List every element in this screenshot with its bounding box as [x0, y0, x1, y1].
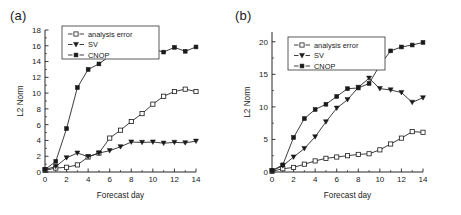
marker-filled-square	[410, 43, 414, 47]
marker-filled-square	[302, 117, 306, 121]
y-tick-label: 4	[37, 136, 42, 145]
marker-open-square	[194, 89, 198, 93]
legend: analysis errorSVCNOP	[62, 26, 159, 60]
panel-b: (b) 0510152002468101214Forecast dayL2 No…	[230, 0, 460, 215]
y-axis-title: L2 Norm	[16, 85, 25, 117]
legend-label-cnop: CNOP	[88, 51, 109, 60]
x-tick-label: 4	[313, 175, 318, 184]
y-tick-label: 16	[32, 42, 41, 51]
marker-open-square	[75, 163, 79, 167]
marker-open-square	[140, 112, 144, 116]
x-tick-label: 10	[375, 175, 384, 184]
x-tick-label: 2	[291, 175, 296, 184]
marker-filled-square	[194, 45, 198, 49]
x-tick-label: 12	[170, 175, 179, 184]
y-axis-title: L2 Norm	[243, 86, 252, 118]
figure-two-panel-line-charts: (a) 02468101214161802468101214Forecast d…	[0, 0, 461, 215]
marker-open-square	[313, 159, 317, 163]
marker-open-square	[367, 152, 371, 156]
marker-filled-square	[356, 86, 360, 90]
marker-open-square	[162, 94, 166, 98]
x-tick-label: 6	[107, 175, 112, 184]
marker-filled-square	[292, 136, 296, 140]
y-tick-label: 12	[32, 73, 41, 82]
marker-filled-square	[389, 49, 393, 53]
marker-filled-square	[75, 86, 79, 90]
y-tick-label: 10	[32, 89, 41, 98]
legend-label-analysis-error: analysis error	[314, 41, 359, 50]
marker-open-square	[151, 102, 155, 106]
marker-filled-triangle-down	[421, 96, 426, 101]
marker-filled-square	[300, 64, 304, 68]
x-axis-ticks: 02468101214	[43, 169, 201, 185]
marker-open-square	[399, 136, 403, 140]
x-tick-label: 4	[86, 175, 91, 184]
marker-filled-square	[86, 68, 90, 72]
x-tick-label: 12	[397, 175, 406, 184]
y-axis-ticks: 05101520	[259, 38, 275, 177]
y-tick-label: 10	[259, 103, 268, 112]
y-tick-label: 5	[264, 135, 269, 144]
panel-b-plot: 0510152002468101214Forecast dayL2 Norman…	[230, 0, 461, 215]
legend: analysis errorSVCNOP	[288, 37, 385, 71]
legend-label-sv: SV	[314, 51, 324, 60]
marker-filled-triangle-down	[323, 120, 328, 125]
series-cnop	[43, 45, 198, 171]
y-tick-label: 6	[37, 121, 42, 130]
marker-filled-square	[270, 169, 274, 173]
marker-open-square	[378, 148, 382, 152]
marker-open-square	[64, 165, 68, 169]
marker-open-square	[335, 155, 339, 159]
x-tick-label: 6	[334, 175, 339, 184]
marker-filled-square	[183, 49, 187, 53]
x-tick-label: 0	[43, 175, 48, 184]
y-tick-label: 18	[32, 26, 41, 35]
y-tick-label: 0	[264, 168, 269, 177]
x-tick-label: 14	[192, 175, 201, 184]
marker-filled-square	[65, 127, 69, 131]
marker-open-square	[183, 87, 187, 91]
y-tick-label: 8	[37, 105, 42, 114]
x-axis-ticks: 02468101214	[270, 169, 428, 185]
x-tick-label: 2	[64, 175, 69, 184]
marker-open-square	[74, 32, 78, 36]
y-tick-label: 14	[32, 57, 41, 66]
x-tick-label: 8	[129, 175, 134, 184]
marker-open-square	[118, 128, 122, 132]
legend-label-analysis-error: analysis error	[88, 30, 133, 39]
x-axis-title: Forecast day	[324, 191, 372, 200]
marker-filled-square	[54, 159, 58, 163]
x-axis-title: Forecast day	[97, 191, 145, 200]
legend-label-sv: SV	[88, 40, 98, 49]
marker-open-square	[345, 154, 349, 158]
marker-open-square	[108, 136, 112, 140]
marker-open-square	[324, 156, 328, 160]
x-tick-label: 10	[148, 175, 157, 184]
y-tick-label: 0	[37, 168, 42, 177]
marker-filled-square	[43, 168, 47, 172]
marker-filled-square	[421, 41, 425, 45]
marker-open-square	[300, 43, 304, 47]
x-tick-label: 0	[270, 175, 275, 184]
marker-filled-triangle-down	[75, 151, 80, 156]
marker-filled-square	[173, 45, 177, 49]
marker-open-square	[172, 89, 176, 93]
marker-open-square	[302, 162, 306, 166]
y-tick-label: 15	[259, 70, 268, 79]
marker-filled-square	[162, 50, 166, 54]
marker-filled-triangle-down	[410, 100, 415, 105]
marker-open-square	[356, 152, 360, 156]
y-tick-label: 20	[259, 38, 268, 47]
marker-filled-triangle-down	[118, 145, 123, 150]
x-tick-label: 14	[419, 175, 428, 184]
series-line	[45, 47, 196, 170]
panel-a: (a) 02468101214161802468101214Forecast d…	[0, 0, 230, 215]
marker-filled-square	[367, 82, 371, 86]
marker-open-square	[421, 130, 425, 134]
marker-filled-square	[281, 163, 285, 167]
marker-open-square	[291, 165, 295, 169]
y-tick-label: 2	[37, 152, 42, 161]
marker-filled-square	[400, 45, 404, 49]
marker-open-square	[389, 142, 393, 146]
marker-filled-square	[324, 102, 328, 106]
